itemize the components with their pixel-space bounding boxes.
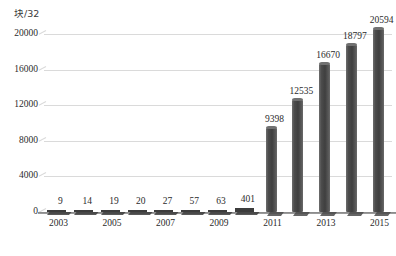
y-axis-tick-label: 8000 [0, 135, 38, 145]
bar-base-shadow [101, 212, 126, 215]
y-axis-tick-label: 4000 [0, 170, 38, 180]
bar-base-shadow [293, 212, 310, 216]
x-axis-tick-label: 2015 [357, 218, 396, 229]
bar-cap [373, 27, 384, 30]
y-axis-tick-label: 0 [0, 206, 38, 216]
bar-cap [319, 62, 330, 65]
x-axis-tick-label: 2013 [303, 218, 349, 229]
bar[interactable] [128, 210, 147, 213]
bar-cap [266, 126, 277, 129]
bar[interactable] [154, 210, 173, 213]
bar-series: 9141920275763401939812535166701879720594 [44, 34, 392, 212]
bar[interactable] [101, 210, 120, 213]
x-axis-tick-label: 2003 [35, 218, 81, 229]
bar-chart: 块/32 040008000120001600020000 9141920275… [0, 0, 396, 256]
y-axis-tick-label: 20000 [0, 28, 38, 38]
x-axis-tick-label: 2007 [142, 218, 188, 229]
bar-base-shadow [128, 212, 153, 215]
bar-base-shadow [320, 212, 337, 216]
bar-cap [346, 43, 357, 46]
bar-base-shadow [154, 212, 179, 215]
bar[interactable] [181, 210, 200, 213]
x-axis-tick-label: 2011 [250, 218, 296, 229]
bar-value-label: 20594 [359, 15, 396, 25]
bar-base-shadow [47, 212, 72, 215]
bar-value-label: 12535 [278, 86, 324, 96]
bar-base-shadow [347, 212, 364, 216]
bar-base-shadow [208, 212, 233, 215]
y-axis-tick-label: 16000 [0, 64, 38, 74]
x-axis-tick-labels: 2003200520072009201120132015 [44, 218, 392, 234]
bar[interactable] [235, 208, 254, 212]
bar-base-shadow [181, 212, 206, 215]
bar[interactable] [208, 210, 227, 213]
plot-area: 040008000120001600020000 914192027576340… [44, 34, 392, 212]
bar[interactable] [319, 64, 330, 212]
bar-value-label: 18797 [332, 31, 378, 41]
y-axis-tick-label: 12000 [0, 99, 38, 109]
bar-value-label: 9398 [252, 114, 298, 124]
x-axis-tick-label: 2005 [89, 218, 135, 229]
bar-base-shadow [267, 212, 284, 216]
bar-base-shadow [235, 212, 260, 215]
x-axis-tick-label: 2009 [196, 218, 242, 229]
bar[interactable] [373, 29, 384, 212]
bar-base-shadow [74, 212, 99, 215]
bar[interactable] [74, 210, 93, 213]
bar-base-shadow [374, 212, 391, 216]
bar-value-label: 401 [225, 194, 271, 204]
y-axis-unit-label: 块/32 [14, 8, 39, 19]
bar[interactable] [346, 45, 357, 212]
bar[interactable] [47, 210, 66, 213]
bar-cap [292, 98, 303, 101]
bar-value-label: 16670 [305, 50, 351, 60]
bar[interactable] [266, 128, 277, 212]
bar[interactable] [292, 100, 303, 212]
